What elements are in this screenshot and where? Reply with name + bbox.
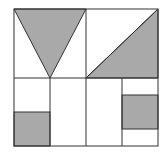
bottom-left-square (14, 112, 50, 146)
geometry-diagram (0, 0, 166, 158)
inverted-triangle (14, 9, 86, 78)
right-rectangle (122, 95, 158, 129)
